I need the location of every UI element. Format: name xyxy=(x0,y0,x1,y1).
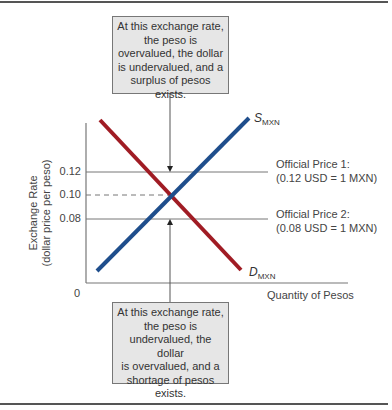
supply-letter: S xyxy=(254,111,262,125)
arrowhead-up-icon xyxy=(167,219,173,225)
callout-line: undervalued, the dollar xyxy=(115,333,226,360)
origin-label: 0 xyxy=(74,287,80,299)
callout-line: exists. xyxy=(115,387,226,401)
y-tick-010: 0.10 xyxy=(41,188,81,200)
callout-line: shortage of pesos xyxy=(115,374,226,388)
x-axis-label: Quantity of Pesos xyxy=(267,289,354,301)
y-axis-label-line1: Exchange Rate xyxy=(27,133,40,293)
demand-letter: D xyxy=(249,265,258,279)
official-price-1-title: Official Price 1: xyxy=(276,157,377,171)
y-tick-008: 0.08 xyxy=(41,212,81,224)
supply-label: SMXN xyxy=(254,111,280,127)
demand-label: DMXN xyxy=(249,265,275,281)
callout-line: is overvalued, and a xyxy=(115,360,226,374)
official-price-2-title: Official Price 2: xyxy=(276,207,377,221)
official-price-1-label: Official Price 1: (0.12 USD = 1 MXN) xyxy=(276,157,377,185)
demand-subscript: MXN xyxy=(258,272,276,281)
callout-shortage: At this exchange rate, the peso is under… xyxy=(112,302,229,384)
y-tick-012: 0.12 xyxy=(41,165,81,177)
supply-subscript: MXN xyxy=(262,118,280,127)
arrowhead-down-icon xyxy=(167,166,173,172)
official-price-1-value: (0.12 USD = 1 MXN) xyxy=(276,171,377,185)
callout-line: the peso is xyxy=(115,320,226,334)
official-price-2-label: Official Price 2: (0.08 USD = 1 MXN) xyxy=(276,207,377,235)
official-price-2-value: (0.08 USD = 1 MXN) xyxy=(276,221,377,235)
callout-line: At this exchange rate, xyxy=(115,306,226,320)
